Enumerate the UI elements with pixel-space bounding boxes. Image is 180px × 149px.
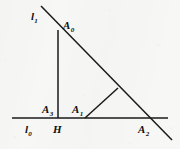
label-a0-subscript: 0 <box>71 26 75 34</box>
label-l1: l1 <box>31 7 38 23</box>
label-l0-subscript: 0 <box>28 130 32 138</box>
label-a3-subscript: 3 <box>50 110 54 118</box>
label-a3-base: A <box>42 103 49 115</box>
label-l0: l0 <box>25 120 32 136</box>
label-a0-base: A <box>63 19 70 31</box>
label-a2-base: A <box>138 123 145 135</box>
label-a1-base: A <box>72 103 79 115</box>
label-h: H <box>53 120 62 136</box>
label-a0: A0 <box>63 16 74 32</box>
label-a1: A1 <box>72 100 83 116</box>
geometry-figure: l1 A0 A3 A1 l0 H A2 <box>0 0 180 149</box>
label-a2-subscript: 2 <box>146 130 150 138</box>
label-a3: A3 <box>42 100 53 116</box>
label-l1-subscript: 1 <box>34 17 38 25</box>
label-h-base: H <box>53 123 62 135</box>
label-a1-subscript: 1 <box>80 110 84 118</box>
label-a2: A2 <box>138 120 149 136</box>
